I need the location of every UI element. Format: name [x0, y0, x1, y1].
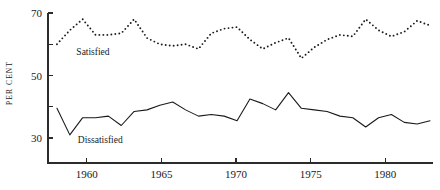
x-axis-tick-labels: 19601965197019751980: [76, 168, 397, 180]
chart-plot-area: 305070 19601965197019751980 SatisfiedDis…: [0, 0, 440, 190]
y-tick-label-50: 50: [31, 70, 43, 82]
y-tick-label-70: 70: [31, 7, 43, 19]
series-satisfied: [56, 18, 429, 58]
series-dissatisfied: [57, 93, 430, 135]
percent-satisfaction-chart: 305070 19601965197019751980 SatisfiedDis…: [0, 0, 440, 190]
y-axis-title: PER CENT: [5, 61, 14, 105]
annotation-dissatisfied: Dissatisfied: [78, 135, 123, 145]
y-tick-label-30: 30: [31, 132, 43, 144]
y-axis-ticks: [48, 13, 53, 138]
x-axis-ticks: [87, 158, 385, 163]
x-tick-label-1975: 1975: [300, 168, 323, 180]
x-tick-label-1965: 1965: [150, 168, 173, 180]
y-axis-tick-labels: 305070: [31, 7, 43, 144]
x-tick-label-1970: 1970: [225, 168, 248, 180]
data-series-group: [56, 18, 430, 135]
x-tick-label-1960: 1960: [76, 168, 99, 180]
x-tick-label-1980: 1980: [374, 168, 397, 180]
series-annotations: SatisfiedDissatisfied: [76, 47, 123, 145]
annotation-satisfied: Satisfied: [76, 47, 109, 57]
